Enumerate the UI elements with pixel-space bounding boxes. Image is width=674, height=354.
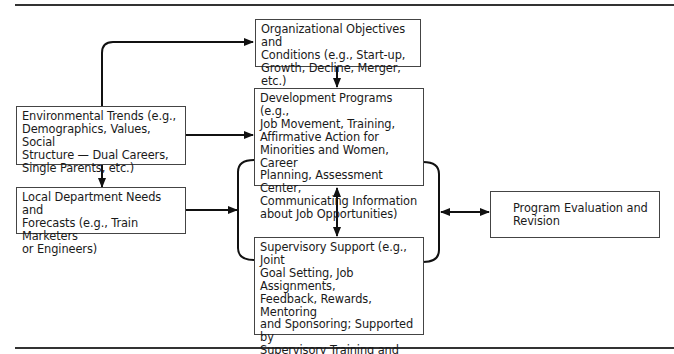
supervisory-support-box: Supervisory Support (e.g., Joint Goal Se… — [254, 237, 424, 335]
arrow-env-to-org — [102, 42, 253, 106]
org-objectives-box: Organizational Objectives and Conditions… — [255, 19, 421, 67]
local-department-box: Local Department Needs and Forecasts (e.… — [16, 187, 186, 234]
environmental-trends-box: Environmental Trends (e.g., Demographics… — [16, 106, 186, 165]
left-bracket — [238, 160, 254, 260]
development-programs-box: Development Programs (e.g., Job Movement… — [254, 88, 424, 186]
right-bracket — [423, 162, 439, 262]
program-evaluation-box: Program Evaluation and Revision — [490, 191, 660, 238]
